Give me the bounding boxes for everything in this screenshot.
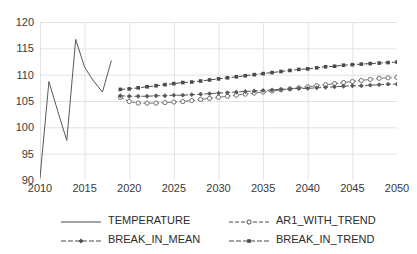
data-point-marker [288, 69, 292, 73]
x-axis-tick-label: 2030 [206, 182, 230, 194]
gridlines [40, 22, 397, 180]
data-point-marker [199, 97, 203, 101]
x-axis-tick-label: 2025 [162, 182, 186, 194]
data-point-marker [377, 61, 381, 65]
legend-swatch-icon [60, 214, 102, 226]
data-point-marker [386, 82, 391, 87]
data-point-marker [386, 76, 390, 80]
data-point-marker [163, 83, 167, 87]
data-point-marker [342, 63, 346, 67]
data-point-marker [225, 90, 230, 95]
data-point-marker [119, 88, 123, 92]
data-point-marker [172, 82, 176, 86]
legend-item-temperature[interactable]: TEMPERATURE [60, 214, 228, 226]
data-point-marker [190, 80, 194, 84]
legend-swatch-icon [60, 233, 102, 245]
chart-figure: 9095100105110115120 20102015202020252030… [0, 0, 417, 254]
data-point-marker [172, 100, 176, 104]
data-point-marker [198, 92, 203, 97]
data-point-marker [189, 92, 194, 97]
data-point-marker [181, 99, 185, 103]
data-point-marker [297, 68, 301, 72]
data-point-marker [243, 74, 247, 78]
legend-item-ar1-with-trend[interactable]: AR1_WITH_TREND [228, 214, 380, 226]
data-point-marker [395, 75, 397, 79]
data-point-marker [145, 85, 149, 89]
y-axis-tick-label: 110 [16, 69, 34, 80]
data-point-marker [324, 65, 328, 69]
data-point-marker [127, 87, 131, 91]
legend-label: BREAK_IN_MEAN [108, 233, 200, 245]
data-point-marker [359, 83, 364, 88]
data-point-marker [235, 75, 239, 79]
data-point-marker [207, 91, 212, 96]
data-point-marker [386, 61, 390, 65]
series-line [120, 77, 397, 103]
data-point-marker [217, 77, 221, 81]
legend-swatch-icon [228, 214, 270, 226]
data-point-marker [127, 99, 131, 103]
legend-item-break-in-trend[interactable]: BREAK_IN_TREND [228, 233, 380, 245]
data-point-marker [333, 64, 337, 68]
legend-label: TEMPERATURE [108, 214, 190, 226]
data-point-marker [207, 96, 211, 100]
y-axis-tick-label: 100 [16, 122, 34, 133]
x-axis-tick-label: 2020 [117, 182, 141, 194]
data-point-marker [154, 84, 158, 88]
series-line [120, 84, 397, 96]
data-point-marker [145, 101, 149, 105]
legend-item-break-in-mean[interactable]: BREAK_IN_MEAN [60, 233, 228, 245]
data-point-marker [368, 62, 372, 66]
data-point-marker [190, 98, 194, 102]
data-point-marker [136, 101, 140, 105]
data-point-marker [136, 86, 140, 90]
data-point-marker [368, 77, 372, 81]
data-point-marker [350, 79, 354, 83]
data-point-marker [154, 101, 158, 105]
data-point-marker [216, 91, 221, 96]
data-point-marker [315, 66, 319, 70]
data-point-marker [226, 76, 230, 80]
x-axis-tick-label: 2015 [72, 182, 96, 194]
data-point-marker [252, 73, 256, 77]
data-point-marker [270, 71, 274, 75]
data-point-marker [359, 78, 363, 82]
data-point-marker [208, 78, 212, 82]
x-axis-tick-label: 2050 [385, 182, 409, 194]
data-point-marker [127, 94, 132, 99]
y-axis-tick-label: 105 [16, 96, 34, 107]
series-line [40, 39, 111, 178]
series-break-in-mean [118, 82, 397, 99]
data-point-marker [181, 81, 185, 85]
chart-canvas [40, 22, 397, 180]
series-ar1-with-trend [118, 75, 397, 105]
data-point-marker [306, 67, 310, 71]
series-break-in-trend [119, 60, 397, 91]
data-point-marker [377, 76, 381, 80]
data-point-marker [154, 93, 159, 98]
y-axis-tick-label: 120 [16, 17, 34, 28]
x-axis-tick-label: 2045 [340, 182, 364, 194]
x-axis-tick-label: 2035 [251, 182, 275, 194]
data-point-marker [395, 82, 397, 87]
y-axis-tick-label: 115 [16, 43, 34, 54]
data-point-marker [136, 94, 141, 99]
data-point-marker [368, 83, 373, 88]
x-axis-tick-label: 2040 [296, 182, 320, 194]
data-point-marker [395, 60, 397, 64]
data-point-marker [341, 84, 346, 89]
data-point-marker [360, 62, 364, 66]
plot-area [40, 22, 397, 180]
data-point-marker [279, 70, 283, 74]
data-point-marker [163, 100, 167, 104]
chart-legend: TEMPERATUREAR1_WITH_TRENDBREAK_IN_MEANBR… [60, 210, 380, 248]
y-axis-tick-label: 95 [22, 148, 34, 159]
series-temperature [40, 39, 111, 178]
x-axis-tick-label: 2010 [28, 182, 52, 194]
data-point-marker [171, 93, 176, 98]
y-axis-tick-labels: 9095100105110115120 [0, 22, 34, 180]
data-point-marker [145, 94, 150, 99]
data-point-marker [163, 93, 168, 98]
legend-label: AR1_WITH_TREND [276, 214, 376, 226]
data-point-marker [377, 82, 382, 87]
